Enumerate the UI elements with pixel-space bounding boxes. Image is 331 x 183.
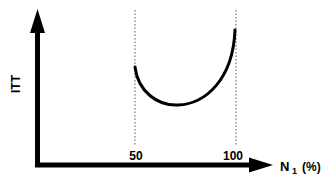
- itt-curve: [135, 30, 235, 105]
- x-axis-label-unit: (%): [302, 160, 321, 174]
- y-axis-arrowhead-icon: [30, 9, 45, 33]
- x-tick-50: 50: [129, 149, 143, 163]
- x-axis-label-main: N: [280, 159, 289, 174]
- x-axis-label: N 1 (%): [280, 159, 321, 176]
- itt-vs-n1-chart: 50 100 N 1 (%) ITT: [0, 0, 331, 183]
- y-axis-label: ITT: [9, 74, 23, 93]
- y-axis: [30, 9, 45, 165]
- x-tick-100: 100: [223, 149, 243, 163]
- x-axis-label-subscript: 1: [292, 166, 297, 176]
- x-axis-arrowhead-icon: [249, 158, 273, 173]
